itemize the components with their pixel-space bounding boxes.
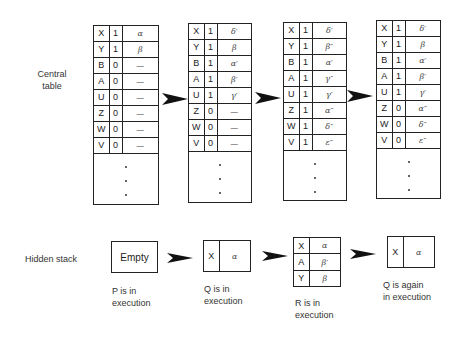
table-row: Y1β bbox=[189, 40, 251, 56]
table-row: V0ε″ bbox=[377, 133, 440, 149]
value-cell: — bbox=[122, 106, 158, 122]
value-cell: β bbox=[217, 40, 251, 56]
var-cell: B bbox=[377, 53, 392, 69]
flag-cell: 1 bbox=[392, 85, 405, 101]
flag-cell: 1 bbox=[299, 23, 312, 39]
caption-line1: Q is again bbox=[383, 279, 431, 291]
value-cell: α′ bbox=[312, 55, 346, 71]
value-cell: β′ bbox=[405, 69, 440, 85]
var-cell: Z bbox=[94, 106, 109, 122]
var-cell: Y bbox=[377, 37, 392, 53]
flag-cell: 0 bbox=[204, 120, 217, 136]
table-row: A1β′ bbox=[189, 72, 251, 88]
var-cell: B bbox=[284, 55, 299, 71]
table-row: B0— bbox=[94, 58, 158, 74]
var-cell: V bbox=[284, 135, 299, 151]
stack-row: Yβ bbox=[294, 270, 340, 286]
var-cell: Z bbox=[189, 104, 204, 120]
var-cell: A bbox=[377, 69, 392, 85]
table-row: Z0— bbox=[94, 106, 158, 122]
table-row: Z0α″ bbox=[377, 101, 440, 117]
value-cell: α″ bbox=[312, 103, 346, 119]
flag-cell: 0 bbox=[109, 74, 122, 90]
value-cell: — bbox=[122, 58, 158, 74]
flag-cell: 0 bbox=[204, 136, 217, 152]
stack-caption-4: Q is again in execution bbox=[383, 279, 431, 303]
flag-cell: 1 bbox=[392, 53, 405, 69]
value-cell: α′ bbox=[405, 53, 440, 69]
var-cell: X bbox=[189, 24, 204, 40]
value-cell: β″ bbox=[312, 39, 346, 55]
value-cell: — bbox=[217, 136, 251, 152]
flag-cell: 0 bbox=[109, 106, 122, 122]
value-cell: γ′ bbox=[405, 85, 440, 101]
value-cell: δ″ bbox=[405, 117, 440, 133]
var-cell: U bbox=[189, 88, 204, 104]
continuation-dots bbox=[94, 154, 158, 204]
flag-cell: 1 bbox=[299, 71, 312, 87]
value-cell: α bbox=[403, 237, 434, 267]
flag-cell: 1 bbox=[299, 119, 312, 135]
var-cell: Z bbox=[377, 101, 392, 117]
hidden-stack-1: Empty bbox=[111, 241, 158, 273]
table-row: V0— bbox=[94, 138, 158, 154]
var-cell: X bbox=[388, 237, 403, 267]
value-cell: γ′ bbox=[312, 87, 346, 103]
value-cell: γ″ bbox=[312, 71, 346, 87]
table-row: W0δ″ bbox=[377, 117, 440, 133]
table-row: B1α′ bbox=[284, 55, 346, 71]
value-cell: β bbox=[122, 42, 158, 58]
value-cell: δ′ bbox=[312, 23, 346, 39]
flag-cell: 0 bbox=[109, 58, 122, 74]
caption-line2: execution bbox=[295, 309, 334, 321]
flag-cell: 1 bbox=[392, 21, 405, 37]
empty-label: Empty bbox=[112, 242, 157, 272]
arrow-right-icon bbox=[162, 92, 188, 110]
table-row: V1ε″ bbox=[284, 135, 346, 151]
table-row: B1α′ bbox=[189, 56, 251, 72]
table-row: Y1β″ bbox=[284, 39, 346, 55]
var-cell: B bbox=[94, 58, 109, 74]
stack-row: Xα bbox=[294, 238, 340, 254]
flag-cell: 0 bbox=[109, 122, 122, 138]
var-cell: A bbox=[284, 71, 299, 87]
var-cell: X bbox=[377, 21, 392, 37]
table-row: B1α′ bbox=[377, 53, 440, 69]
arrow-right-icon bbox=[350, 246, 376, 264]
value-cell: — bbox=[122, 90, 158, 106]
hidden-stack-4: Xα bbox=[387, 236, 435, 268]
value-cell: — bbox=[217, 104, 251, 120]
value-cell: α′ bbox=[217, 56, 251, 72]
table-row: U0— bbox=[94, 90, 158, 106]
var-cell: X bbox=[204, 241, 219, 271]
var-cell: W bbox=[377, 117, 392, 133]
value-cell: β′ bbox=[309, 254, 340, 271]
var-cell: X bbox=[294, 238, 309, 254]
central-table-3: X1δ′ Y1β″ B1α′ A1γ″ U1γ′ Z1α″ W1δ″ V1ε″ bbox=[283, 22, 347, 201]
var-cell: U bbox=[284, 87, 299, 103]
table-row: Y1β bbox=[377, 37, 440, 53]
stack-caption-2: Q is in execution bbox=[204, 283, 243, 307]
var-cell: Y bbox=[284, 39, 299, 55]
central-table-label-line2: table bbox=[22, 80, 82, 92]
caption-line2: execution bbox=[112, 297, 151, 309]
continuation-dots bbox=[284, 151, 346, 201]
value-cell: β′ bbox=[217, 72, 251, 88]
caption-line1: Q is in bbox=[204, 283, 243, 295]
table-row: Z1α″ bbox=[284, 103, 346, 119]
var-cell: Y bbox=[189, 40, 204, 56]
hidden-stack-2: Xα bbox=[203, 240, 251, 272]
table-row: Z0— bbox=[189, 104, 251, 120]
value-cell: ε″ bbox=[312, 135, 346, 151]
table-row: A0— bbox=[94, 74, 158, 90]
flag-cell: 1 bbox=[204, 40, 217, 56]
table-row: A1γ″ bbox=[284, 71, 346, 87]
caption-line2: in execution bbox=[383, 291, 431, 303]
flag-cell: 0 bbox=[392, 101, 405, 117]
value-cell: α bbox=[219, 241, 250, 271]
caption-line2: execution bbox=[204, 295, 243, 307]
stack-caption-3: R is in execution bbox=[295, 297, 334, 321]
central-table-4: X1δ′ Y1β B1α′ A1β′ U1γ′ Z0α″ W0δ″ V0ε″ bbox=[376, 20, 441, 199]
table-row: X1α bbox=[94, 26, 158, 42]
flag-cell: 0 bbox=[392, 133, 405, 149]
